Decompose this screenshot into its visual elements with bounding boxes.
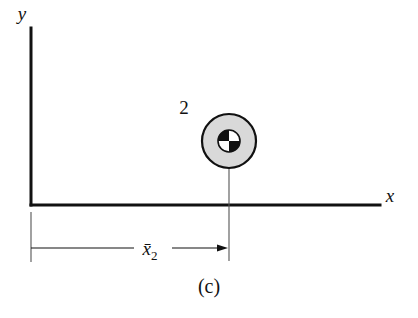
dimension-label-subscript: 2 — [151, 248, 158, 263]
body-2-disk — [202, 114, 256, 168]
body-number-label: 2 — [179, 97, 189, 118]
figure-drawing: y x 2 x̄2 — [0, 0, 418, 318]
figure-container: y x 2 x̄2 — [0, 0, 418, 318]
x-axis-label: x — [385, 185, 395, 206]
y-axis-label: y — [16, 3, 27, 24]
figure-caption: (c) — [198, 275, 220, 298]
